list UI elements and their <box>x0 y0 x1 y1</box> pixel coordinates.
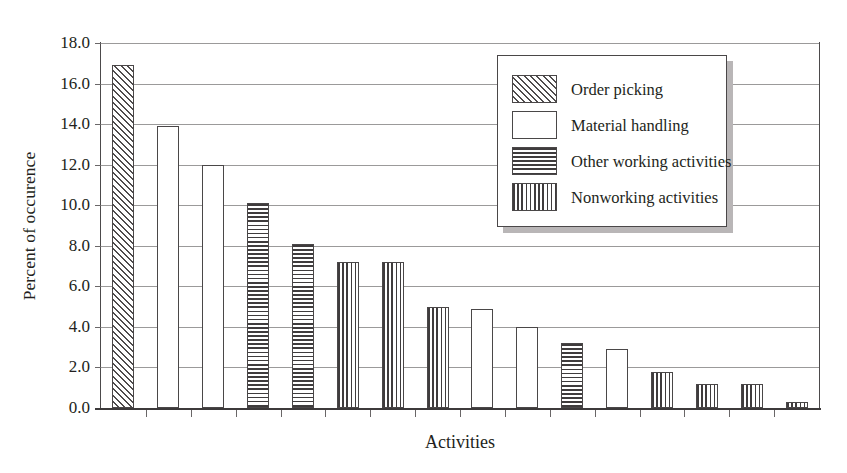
y-tick-mark <box>95 43 101 44</box>
x-axis-spine <box>95 408 821 410</box>
bar <box>337 262 359 408</box>
bar <box>696 384 718 408</box>
bar <box>606 349 628 408</box>
bar <box>382 262 404 408</box>
y-axis-tick-labels: 18.016.014.012.010.08.06.04.02.00.0 <box>34 0 90 473</box>
legend-item: Order picking <box>512 72 663 106</box>
y-tick-label: 12.0 <box>34 156 90 173</box>
y-tick-label: 4.0 <box>34 318 90 335</box>
bar-chart-figure: Percent of occurence 18.016.014.012.010.… <box>0 0 847 473</box>
y-tick-label: 0.0 <box>34 399 90 416</box>
bar <box>112 65 134 408</box>
legend-label: Other working activities <box>571 153 731 170</box>
x-tick-mark <box>370 409 371 417</box>
legend: Order pickingMaterial handlingOther work… <box>497 55 727 227</box>
y-tick-mark <box>95 286 101 287</box>
y-tick-label: 16.0 <box>34 75 90 92</box>
bar <box>471 309 493 408</box>
y-tick-mark <box>95 84 101 85</box>
x-tick-mark <box>729 409 730 417</box>
legend-item: Other working activities <box>512 144 731 178</box>
x-tick-mark <box>505 409 506 417</box>
y-axis-spine <box>100 42 101 409</box>
legend-item: Material handling <box>512 108 689 142</box>
bar <box>516 327 538 408</box>
y-tick-mark <box>95 246 101 247</box>
x-tick-mark <box>415 409 416 417</box>
bar <box>292 244 314 408</box>
legend-swatch-stipple-dots <box>512 111 557 139</box>
x-tick-mark <box>640 409 641 417</box>
x-tick-mark <box>595 409 596 417</box>
x-tick-mark <box>281 409 282 417</box>
legend-label: Nonworking activities <box>571 189 718 206</box>
y-tick-label: 6.0 <box>34 277 90 294</box>
legend-item: Nonworking activities <box>512 180 718 214</box>
legend-swatch-horizontal-lines <box>512 147 557 175</box>
y-tick-mark <box>95 124 101 125</box>
x-tick-mark <box>460 409 461 417</box>
x-tick-mark <box>191 409 192 417</box>
y-tick-label: 14.0 <box>34 115 90 132</box>
y-tick-mark <box>95 327 101 328</box>
x-tick-mark <box>236 409 237 417</box>
y-tick-mark <box>95 367 101 368</box>
plot-right-border <box>819 42 820 409</box>
x-tick-mark <box>325 409 326 417</box>
legend-swatch-vertical-lines <box>512 183 557 211</box>
x-axis-label: Activities <box>101 432 819 453</box>
x-tick-mark <box>550 409 551 417</box>
x-tick-mark <box>146 409 147 417</box>
bar <box>741 384 763 408</box>
legend-label: Material handling <box>571 117 689 134</box>
y-tick-label: 8.0 <box>34 237 90 254</box>
y-tick-mark <box>95 165 101 166</box>
bar <box>561 343 583 408</box>
y-tick-label: 2.0 <box>34 358 90 375</box>
legend-label: Order picking <box>571 81 663 98</box>
x-tick-mark <box>684 409 685 417</box>
x-tick-mark <box>774 409 775 417</box>
y-tick-label: 10.0 <box>34 196 90 213</box>
y-tick-mark <box>95 205 101 206</box>
bar <box>247 203 269 408</box>
gridline <box>101 43 819 44</box>
bar <box>427 307 449 408</box>
bar <box>651 372 673 409</box>
y-tick-label: 18.0 <box>34 34 90 51</box>
legend-swatch-diagonal-hatch <box>512 75 557 103</box>
bar <box>157 126 179 408</box>
bar <box>202 165 224 408</box>
